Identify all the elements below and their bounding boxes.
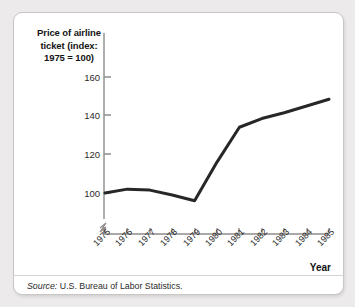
source-divider [14, 275, 343, 276]
x-axis-name-label: Year [310, 262, 331, 273]
y-tick-label-140: 140 [70, 110, 100, 121]
chart-card: Price of airline ticket (index: 1975 = 1… [13, 12, 344, 295]
source-value: U.S. Bureau of Labor Statistics. [60, 281, 183, 291]
y-tick-label-100: 100 [70, 188, 100, 199]
y-tick-label-160: 160 [70, 72, 100, 83]
source-note: Source: U.S. Bureau of Labor Statistics. [27, 281, 183, 291]
source-label: Source: [27, 281, 57, 291]
y-tick-label-120: 120 [70, 149, 100, 160]
data-series-line [105, 99, 329, 200]
y-tick-marks [104, 77, 111, 193]
screenshot-root: Price of airline ticket (index: 1975 = 1… [0, 0, 355, 307]
line-chart-plot [14, 13, 344, 295]
